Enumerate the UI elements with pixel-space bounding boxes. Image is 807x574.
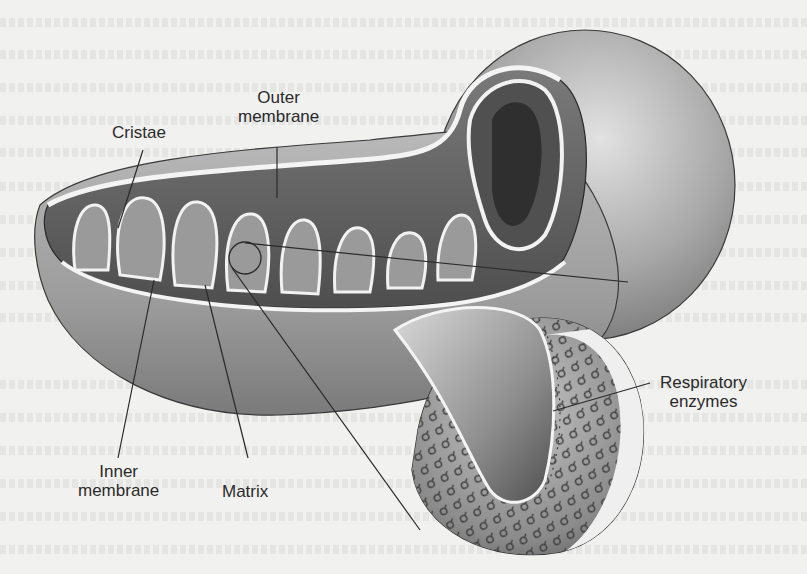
label-outer-membrane: Outer membrane xyxy=(238,88,319,126)
label-cristae-text: Cristae xyxy=(112,123,166,142)
label-cristae: Cristae xyxy=(112,123,166,142)
label-matrix-text: Matrix xyxy=(222,482,268,501)
label-respiratory-enzymes: Respiratory enzymes xyxy=(660,373,747,411)
label-outer-membrane-line1: Outer xyxy=(238,88,319,107)
label-inner-membrane-line1: Inner xyxy=(78,462,159,481)
label-respiratory-enzymes-line2: enzymes xyxy=(660,392,747,411)
label-matrix: Matrix xyxy=(222,482,268,501)
label-respiratory-enzymes-line1: Respiratory xyxy=(660,373,747,392)
label-inner-membrane-line2: membrane xyxy=(78,481,159,500)
label-outer-membrane-line2: membrane xyxy=(238,107,319,126)
label-inner-membrane: Inner membrane xyxy=(78,462,159,500)
